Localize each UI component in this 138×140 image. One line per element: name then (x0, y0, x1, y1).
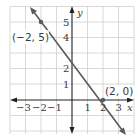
y-axis-up-arrow-icon (70, 6, 75, 13)
y-tick-label: 2 (63, 63, 69, 74)
y-tick-label: 1 (63, 79, 69, 90)
x-tick-label: 1 (85, 102, 91, 113)
x-tick-label: −1 (47, 102, 62, 113)
x-tick-label: 3 (116, 102, 122, 113)
point-a-marker (39, 20, 43, 24)
point-a-label: (−2, 5) (12, 31, 49, 43)
y-axis-label: y (76, 7, 83, 18)
axes (10, 6, 134, 134)
x-tick-label: 2 (100, 102, 106, 113)
x-tick-label: −3 (16, 102, 31, 113)
y-tick-label: 5 (63, 17, 69, 28)
coordinate-plane: −3 −2 −1 1 2 3 x 5 4 2 1 y (−2, 5) (2, 0… (0, 0, 138, 140)
y-tick-label: 4 (63, 32, 69, 43)
y-axis-down-arrow-icon (70, 127, 75, 134)
x-axis-label: x (127, 102, 133, 113)
x-tick-label: −2 (32, 102, 47, 113)
point-b-label: (2, 0) (105, 85, 133, 97)
